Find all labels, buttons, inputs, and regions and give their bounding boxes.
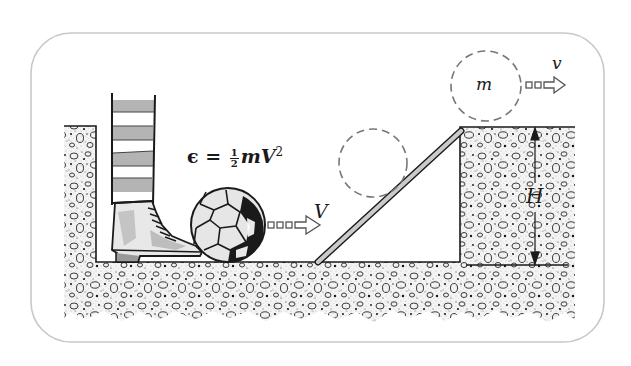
formula-exponent: 2 (276, 145, 284, 159)
final-velocity-label: v (552, 55, 562, 72)
energy-formula: ϵ = 1 2 mV2 (187, 146, 283, 169)
mass-label: m (476, 76, 492, 93)
equals-sign: = (205, 145, 221, 167)
formula-mass: m (241, 145, 261, 167)
soccer-ball (191, 188, 265, 262)
striped-sock-leg (112, 93, 155, 205)
initial-velocity-label: V (314, 202, 328, 221)
energy-symbol: ϵ (187, 145, 199, 167)
formula-velocity: V (261, 145, 276, 167)
height-label: H (526, 186, 543, 206)
physics-diagram (0, 0, 631, 366)
fraction-denominator: 2 (230, 159, 239, 169)
one-half-fraction: 1 2 (230, 148, 239, 169)
